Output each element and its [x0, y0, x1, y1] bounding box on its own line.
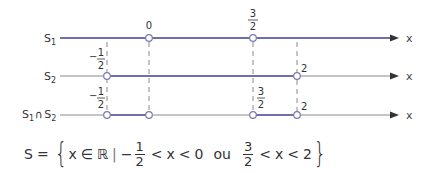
label-three-halves-den: 2: [258, 99, 264, 110]
label-minus-half-sign: −: [89, 51, 97, 62]
fraction-three-halves: 3 2: [243, 140, 253, 168]
label-minus-half-sign: −: [89, 90, 97, 101]
solution-set-formula: S = { x ∈ ℝ | − 1 2 < x < 0 ou 3 2 < x <…: [24, 138, 328, 170]
open-circle-zero: [146, 35, 153, 42]
reals-symbol: ℝ: [97, 146, 108, 162]
minus-sign: −: [121, 146, 133, 162]
label-minus-half-num: 1: [98, 86, 104, 97]
label-three-halves-num: 3: [250, 8, 256, 19]
open-circle-zero: [146, 112, 153, 119]
arrow-icon: [390, 35, 399, 42]
formula-var: x: [275, 146, 283, 162]
less-than: <: [151, 146, 163, 162]
row-label-s1: S1: [44, 32, 56, 47]
fraction-one-half: 1 2: [135, 140, 145, 168]
axis-label-x: x: [406, 70, 413, 83]
element-of-symbol: ∈: [81, 146, 93, 162]
open-circle-minus-half: [104, 73, 111, 80]
open-circle-three-halves: [250, 112, 257, 119]
dashed-guides: [107, 42, 297, 116]
label-three-halves-den: 2: [250, 21, 256, 32]
such-that-bar: |: [112, 146, 117, 162]
sign-chart-diagram: S1 x 0 3 2 S2 x − 1 2 2 S1∩S2 x −: [0, 0, 432, 135]
label-two: 2: [301, 63, 307, 74]
less-than: <: [179, 146, 191, 162]
less-than: <: [287, 146, 299, 162]
formula-var: x: [68, 146, 76, 162]
or-word: ou: [213, 146, 230, 162]
row-intersection: S1∩S2 x − 1 2 3 2 2: [22, 86, 413, 123]
formula-two: 2: [303, 146, 312, 162]
row-label-intersection: S1∩S2: [22, 108, 56, 123]
formula-lhs: S: [24, 146, 33, 162]
row-label-s2: S2: [44, 70, 56, 85]
formula-var: x: [167, 146, 175, 162]
close-brace: }: [314, 140, 326, 168]
axis-label-x: x: [406, 32, 413, 45]
row-s1: S1 x 0 3 2: [44, 8, 413, 47]
label-minus-half-den: 2: [98, 99, 104, 110]
open-circle-three-halves: [250, 35, 257, 42]
axis-label-x: x: [406, 109, 413, 122]
formula-equals: =: [37, 146, 49, 162]
arrow-icon: [390, 112, 399, 119]
open-circle-minus-half: [104, 112, 111, 119]
label-zero: 0: [146, 20, 152, 31]
open-circle-two: [294, 73, 301, 80]
label-three-halves-num: 3: [258, 86, 264, 97]
formula-zero: 0: [195, 146, 204, 162]
label-minus-half-num: 1: [98, 47, 104, 58]
row-s2: S2 x − 1 2 2: [44, 47, 413, 85]
open-brace: {: [54, 140, 66, 168]
label-two: 2: [301, 101, 307, 112]
less-than: <: [259, 146, 271, 162]
arrow-icon: [390, 73, 399, 80]
open-circle-two: [294, 112, 301, 119]
label-minus-half-den: 2: [98, 60, 104, 71]
